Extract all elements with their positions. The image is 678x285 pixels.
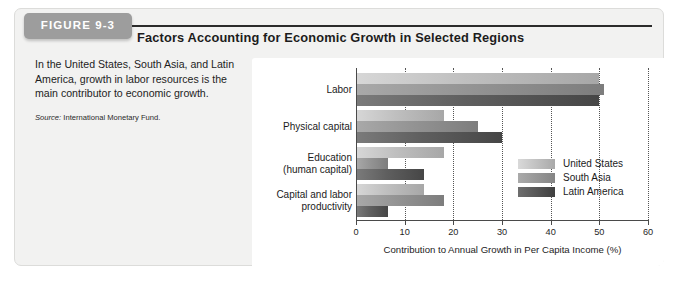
category-label-line: Labor <box>256 84 352 96</box>
x-tick-label-10: 10 <box>400 227 410 237</box>
bar <box>356 110 444 121</box>
title-divider-rule <box>132 25 652 27</box>
category-label: Physical capital <box>256 121 352 133</box>
figure-caption: In the United States, South Asia, and La… <box>35 57 235 101</box>
figure-number-tab: FIGURE 9-3 <box>24 13 132 39</box>
x-axis-title: Contribution to Annual Growth in Per Cap… <box>356 244 649 255</box>
bar <box>356 95 599 106</box>
legend-swatch-united-states <box>518 159 555 169</box>
legend-item-south-asia: South Asia <box>518 171 658 184</box>
x-tick-label-60: 60 <box>643 227 653 237</box>
legend-label-south-asia: South Asia <box>563 172 611 183</box>
x-tick-60 <box>648 221 649 225</box>
category-label-line: (human capital) <box>256 164 352 176</box>
chart-legend: United States South Asia Latin America <box>518 157 658 199</box>
figure-number-label: FIGURE 9-3 <box>24 19 132 31</box>
figure-source: Source: International Monetary Fund. <box>35 113 235 122</box>
legend-item-latin-america: Latin America <box>518 185 658 198</box>
source-value-label: International Monetary Fund. <box>63 113 160 122</box>
chart-plot-area: LaborPhysical capitalEducation(human cap… <box>252 58 664 266</box>
figure-panel: FIGURE 9-3 Factors Accounting for Econom… <box>14 8 664 266</box>
category-label-line: Physical capital <box>256 121 352 133</box>
x-tick-label-50: 50 <box>594 227 604 237</box>
x-tick-0 <box>356 221 357 225</box>
bar <box>356 169 424 180</box>
x-tick-30 <box>502 221 503 225</box>
x-tick-label-40: 40 <box>546 227 556 237</box>
source-prefix-label: Source: <box>35 113 61 122</box>
caption-block: In the United States, South Asia, and La… <box>35 57 235 122</box>
category-label-line: Capital and labor <box>256 189 352 201</box>
x-tick-50 <box>599 221 600 225</box>
category-label: Labor <box>256 84 352 96</box>
category-label-line: productivity <box>256 201 352 213</box>
x-tick-label-0: 0 <box>353 227 358 237</box>
category-label-line: Education <box>256 152 352 164</box>
bar <box>356 132 502 143</box>
x-tick-label-30: 30 <box>497 227 507 237</box>
bar <box>356 84 604 95</box>
x-tick-label-20: 20 <box>448 227 458 237</box>
bar <box>356 73 599 84</box>
bar <box>356 184 424 195</box>
x-tick-10 <box>405 221 406 225</box>
bar <box>356 121 478 132</box>
category-label: Capital and laborproductivity <box>256 189 352 213</box>
bar <box>356 206 388 217</box>
figure-title: Factors Accounting for Economic Growth i… <box>137 30 647 45</box>
x-tick-40 <box>551 221 552 225</box>
legend-swatch-south-asia <box>518 173 555 183</box>
legend-swatch-latin-america <box>518 187 555 197</box>
bar <box>356 147 444 158</box>
bar <box>356 158 388 169</box>
category-label: Education(human capital) <box>256 152 352 176</box>
legend-item-united-states: United States <box>518 157 658 170</box>
bar <box>356 195 444 206</box>
legend-label-united-states: United States <box>563 158 623 169</box>
chart-card: LaborPhysical capitalEducation(human cap… <box>252 58 664 266</box>
y-axis-line <box>356 68 357 221</box>
x-tick-20 <box>453 221 454 225</box>
legend-label-latin-america: Latin America <box>563 186 624 197</box>
